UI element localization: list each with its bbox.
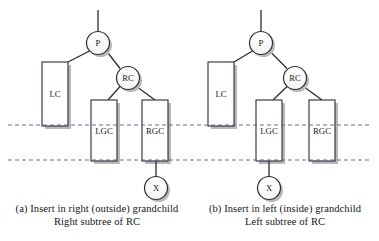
edge-p-rc — [270, 51, 288, 69]
edge-rc-lgc — [273, 87, 287, 101]
panel-a-boxes: LC LGC RGC — [42, 62, 168, 161]
panel-b-boxes: LC LGC RGC — [208, 62, 335, 161]
panel-b: LC LGC RGC P RC X — [208, 10, 338, 202]
node-rc-label: RC — [122, 73, 134, 83]
node-p-label: P — [259, 38, 264, 48]
caption-a-line2: Right subtree of RC — [4, 216, 190, 229]
subtree-lc-label: LC — [49, 89, 60, 99]
node-p-label: P — [96, 38, 101, 48]
edge-p-lc — [68, 51, 90, 62]
node-rc-label: RC — [289, 73, 301, 83]
figure-container: LC LGC RGC P RC X — [0, 0, 379, 241]
subtree-rgc-label: RGC — [313, 126, 331, 136]
node-x-label: X — [153, 183, 160, 193]
subtree-lgc-label: LGC — [260, 126, 278, 136]
caption-b-line2: Left subtree of RC — [192, 216, 378, 229]
subtree-lc-label: LC — [215, 89, 226, 99]
caption-panel-a: (a) Insert in right (outside) grandchild… — [4, 203, 190, 228]
subtree-rgc-label: RGC — [146, 126, 164, 136]
edge-rc-rgc — [137, 87, 156, 101]
caption-b-line1: (b) Insert in left (inside) grandchild — [209, 203, 361, 214]
caption-a-line1: (a) Insert in right (outside) grandchild — [16, 203, 179, 214]
edge-rc-lgc — [108, 87, 120, 101]
edge-rc-rgc — [304, 87, 323, 101]
subtree-lgc-label: LGC — [95, 126, 113, 136]
panel-a: LC LGC RGC P RC X — [42, 10, 171, 202]
caption-panel-b: (b) Insert in left (inside) grandchild L… — [192, 203, 378, 228]
node-x-label: X — [266, 183, 273, 193]
edge-p-lc — [234, 51, 253, 62]
